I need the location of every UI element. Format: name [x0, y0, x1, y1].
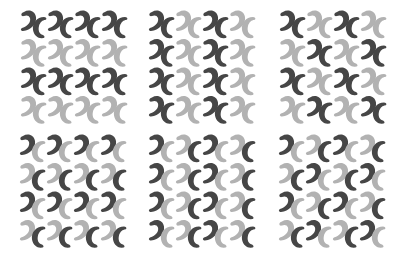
pattern-grid: [148, 133, 264, 249]
panel-2: [148, 9, 264, 125]
pattern-grid: [148, 9, 264, 125]
panel-1: [20, 9, 136, 125]
panel-3: [279, 9, 395, 125]
panel-4: [19, 133, 135, 249]
pattern-grid: [20, 9, 136, 125]
pattern-grid: [19, 133, 135, 249]
pattern-grid: [279, 9, 395, 125]
panel-5: [148, 133, 264, 249]
pattern-grid: [278, 133, 394, 249]
panel-6: [278, 133, 394, 249]
